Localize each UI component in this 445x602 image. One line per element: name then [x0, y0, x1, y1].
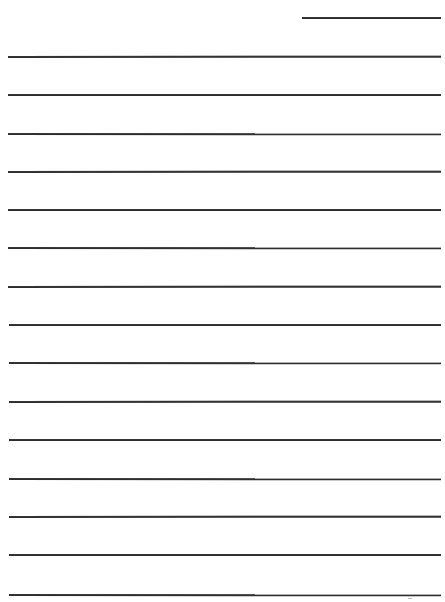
ruled-line — [8, 286, 441, 288]
ruled-line — [8, 247, 441, 249]
ruled-line — [9, 554, 441, 556]
ruled-line — [9, 362, 441, 364]
ruled-line — [8, 209, 441, 211]
ruled-line — [8, 56, 441, 58]
ruled-line — [9, 439, 441, 441]
lined-paper-page — [0, 0, 445, 602]
ruled-line — [9, 594, 441, 596]
ruled-line — [9, 516, 441, 518]
header-name-line — [302, 17, 441, 19]
ruled-line — [8, 133, 441, 135]
ruled-line — [8, 171, 441, 173]
ruled-line — [9, 401, 441, 403]
ruled-line — [9, 478, 441, 480]
ruled-line — [8, 94, 441, 96]
paper-speck — [408, 598, 412, 599]
ruled-line — [9, 324, 441, 326]
